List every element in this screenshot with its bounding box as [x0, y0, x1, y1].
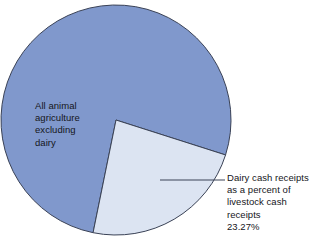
label-line: dairy [35, 137, 80, 149]
pie-chart: All animal agriculture excluding dairy D… [0, 0, 317, 241]
pie-label-dairy-cash-receipts: Dairy cash receipts as a percent of live… [227, 172, 309, 233]
label-line: Dairy cash receipts [227, 172, 309, 184]
label-line: as a percent of [227, 184, 309, 196]
pie-label-all-animal-agriculture: All animal agriculture excluding dairy [35, 100, 80, 149]
label-line: excluding [35, 124, 80, 136]
label-line: agriculture [35, 112, 80, 124]
label-line: livestock cash [227, 196, 309, 208]
pie-value-label: 23.27% [227, 221, 309, 233]
label-line: receipts [227, 209, 309, 221]
label-line: All animal [35, 100, 80, 112]
